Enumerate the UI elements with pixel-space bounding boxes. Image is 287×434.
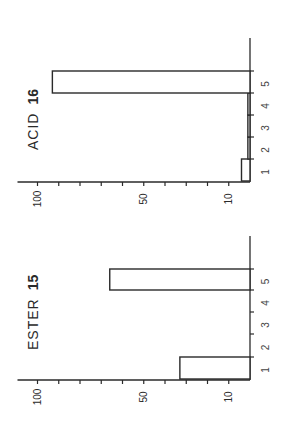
chart-title-name: ESTER [25,298,41,350]
category-label: 4 [260,300,271,306]
bar [248,115,250,137]
category-label: 5 [260,278,271,284]
chart-title: ESTER15 [25,275,41,350]
value-tick-label: 50 [138,193,149,205]
chart-panel-ester: 100501012345ESTER15 [18,236,272,405]
category-label: 2 [260,344,271,350]
category-label: 3 [260,125,271,131]
bar [248,93,250,115]
bar [52,71,250,93]
category-label: 5 [260,81,271,87]
chart-panel-acid: 100501012345ACID16 [18,38,272,207]
category-label: 2 [260,147,271,153]
category-label: 1 [260,169,271,175]
bar [180,357,250,379]
bar [248,137,250,159]
bar [110,269,250,290]
value-tick-label: 100 [32,388,43,405]
chart-figure: 100501012345ACID16 100501012345ESTER15 [0,0,287,434]
value-tick-label: 100 [32,190,43,207]
chart-title-number: 16 [25,89,41,105]
category-label: 3 [260,322,271,328]
bar [242,159,251,181]
value-tick-label: 10 [223,193,234,205]
value-tick-label: 50 [138,391,149,403]
category-label: 4 [260,103,271,109]
chart-title: ACID16 [25,89,41,150]
chart-title-number: 15 [25,275,41,291]
value-tick-label: 10 [223,391,234,403]
chart-title-name: ACID [25,113,41,150]
category-label: 1 [260,367,271,373]
